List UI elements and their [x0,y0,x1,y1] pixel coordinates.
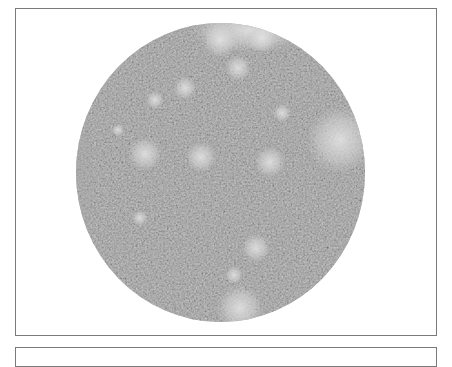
bright-colony [225,55,251,81]
cell-culture-dish [76,23,366,323]
bright-colony [132,210,148,226]
second-image-frame [15,347,437,367]
bright-colony [225,266,243,284]
bright-colony [254,146,285,177]
bright-colony [173,76,196,99]
micrograph-image [76,23,366,323]
bright-colony [202,23,238,58]
bright-colony [128,137,162,171]
bright-colony [185,141,216,172]
bright-colony [146,91,164,109]
bright-colony [246,23,277,54]
bright-colony [273,104,291,122]
bright-colony [242,234,271,263]
bright-colony [112,124,125,137]
